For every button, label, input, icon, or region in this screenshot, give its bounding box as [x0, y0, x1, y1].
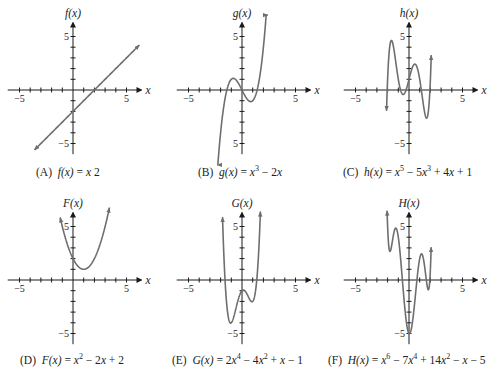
y-tick-label: 5 [400, 221, 405, 232]
y-axis-label: F(x) [62, 197, 83, 210]
x-axis-label: x [314, 84, 321, 96]
function-curve [223, 212, 261, 324]
x-tick-label: −5 [350, 93, 361, 104]
y-tick-label: 5 [400, 31, 405, 42]
y-axis-label: f(x) [65, 7, 81, 20]
caption-function-name: f(x) [58, 166, 74, 178]
panel-b: −5555xg(x) [177, 7, 321, 165]
caption-f: (F) H(x) = x6 − 7x4 + 14x2 − x − 5 [328, 354, 486, 366]
y-tick-label: −5 [58, 328, 69, 339]
caption-function-name: h(x) [364, 166, 383, 178]
caption-label: (D) [20, 354, 36, 366]
axes [344, 23, 478, 155]
y-tick-label: −5 [227, 328, 238, 339]
x-tick-label: −5 [183, 283, 194, 294]
caption-a: (A) f(x) = x 2 [36, 166, 100, 178]
y-tick-label: 5 [233, 221, 238, 232]
caption-label: (A) [36, 166, 52, 178]
panel-e: −555−5xG(x) [177, 197, 321, 345]
caption-label: (E) [172, 354, 187, 366]
x-tick-label: 5 [460, 283, 465, 294]
x-axis-label: x [145, 84, 152, 96]
caption-d: (D) F(x) = x2 − 2x + 2 [20, 354, 124, 366]
function-curve [60, 208, 109, 270]
caption-label: (F) [328, 354, 342, 366]
axes [177, 213, 311, 345]
y-tick-label: 5 [64, 221, 69, 232]
caption-function-name: H(x) [348, 354, 369, 366]
x-tick-label: 5 [124, 93, 129, 104]
y-tick-label: −5 [394, 328, 405, 339]
caption-label: (B) [198, 166, 213, 178]
y-axis-label: H(x) [397, 197, 419, 210]
function-graphs-figure: −555−5xf(x)−5555xg(x)−555−5xh(x)−555−5xF… [0, 0, 501, 379]
y-tick-label: −5 [58, 138, 69, 149]
panel-f: −555−5xH(x) [344, 197, 488, 345]
panel-d: −555−5xF(x) [8, 197, 152, 345]
axes [344, 213, 478, 345]
caption-function-name: G(x) [192, 354, 213, 366]
axes [8, 213, 142, 345]
y-tick-label: 5 [233, 31, 238, 42]
y-tick-label: 5 [233, 138, 238, 149]
x-axis-label: x [314, 274, 321, 286]
panel-a: −555−5xf(x) [8, 7, 152, 155]
x-tick-label: −5 [350, 283, 361, 294]
y-axis-label: h(x) [400, 7, 419, 20]
axes [177, 23, 311, 155]
panel-c: −555−5xh(x) [344, 7, 488, 155]
x-axis-label: x [145, 274, 152, 286]
caption-function-name: g(x) [219, 166, 238, 178]
x-tick-label: 5 [293, 283, 298, 294]
caption-label: (C) [343, 166, 358, 178]
x-tick-label: 5 [293, 93, 298, 104]
y-axis-label: G(x) [231, 197, 252, 210]
x-axis-label: x [481, 274, 488, 286]
caption-b: (B) g(x) = x3 − 2x [198, 166, 282, 178]
x-tick-label: −5 [14, 93, 25, 104]
y-tick-label: −5 [394, 138, 405, 149]
axes [8, 23, 142, 155]
x-axis-label: x [481, 84, 488, 96]
caption-function-name: F(x) [42, 354, 62, 366]
y-axis-label: g(x) [233, 7, 252, 20]
x-tick-label: −5 [183, 93, 194, 104]
x-tick-label: 5 [124, 283, 129, 294]
x-tick-label: −5 [14, 283, 25, 294]
caption-c: (C) h(x) = x5 − 5x3 + 4x + 1 [343, 166, 472, 178]
y-tick-label: 5 [64, 31, 69, 42]
x-tick-label: 5 [460, 93, 465, 104]
caption-e: (E) G(x) = 2x4 − 4x2 + x − 1 [172, 354, 303, 366]
